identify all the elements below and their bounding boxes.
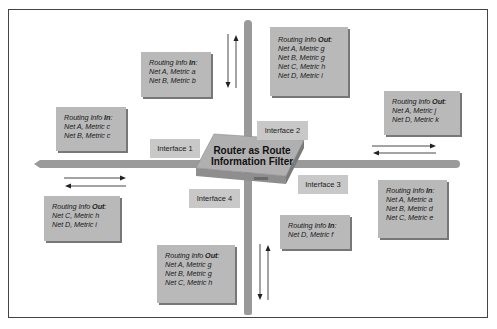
routing-info-box-iface2-out-upper: Routing Info Out: Net A, Metric g Net B,… <box>270 27 348 96</box>
box-line: Net B, Metric d <box>386 204 441 213</box>
routing-info-box-iface2-out-right: Routing Info Out: Net A, Metric j Net D,… <box>384 91 460 135</box>
box-line: Net C, Metric h <box>165 278 229 287</box>
box-line: Net D, Metric k <box>392 115 454 124</box>
box-header-suffix: : <box>334 221 336 230</box>
router-label-line1: Router as Route <box>206 145 298 156</box>
box-line: Net C, Metric h <box>52 211 114 220</box>
routing-info-box-iface4-out-left: Routing Info Out: Net C, Metric h Net D,… <box>44 196 120 241</box>
box-line: Net C, Metric h <box>278 62 342 71</box>
interface-2-label: Interface 2 <box>257 121 308 140</box>
router-label-line2: Information Filter <box>206 156 298 167</box>
interface-1-label: Interface 1 <box>150 139 200 158</box>
arrows-left-horizontal-icon <box>62 175 130 189</box>
box-header-suffix: : <box>104 202 106 211</box>
box-header-suffix: : <box>217 251 219 260</box>
routing-info-box-iface3-in-right: Routing Info In: Net A, Metric a Net B, … <box>378 180 447 238</box>
box-line: Net A, Metric a <box>149 67 205 76</box>
box-header-prefix: Routing Info <box>52 202 92 211</box>
box-header-suffix: : <box>330 35 332 44</box>
box-header-prefix: Routing Info <box>392 97 432 106</box>
box-line: Net D, Metric f <box>288 230 344 239</box>
router-device: Router as Route Information Filter <box>192 132 308 186</box>
box-line: Net B, Metric c <box>64 131 120 140</box>
box-header-prefix: Routing Info <box>386 186 426 195</box>
routing-info-box-iface1-in-upper: Routing Info In: Net A, Metric a Net B, … <box>141 52 211 97</box>
box-direction: Out <box>318 35 330 44</box>
box-direction: Out <box>205 251 217 260</box>
box-header-suffix: : <box>195 58 197 67</box>
box-header-suffix: : <box>110 113 112 122</box>
box-line: Net D, Metric i <box>278 71 342 80</box>
box-line: Net B, Metric b <box>149 76 205 85</box>
box-line: Net A, Metric g <box>278 44 342 53</box>
routing-info-box-iface1-in-lower: Routing Info In: Net A, Metric c Net B, … <box>56 107 126 151</box>
arrows-right-horizontal-icon <box>370 142 440 156</box>
box-line: Net A, Metric c <box>64 122 120 131</box>
box-header-prefix: Routing Info <box>64 113 104 122</box>
interface-3-label: Interface 3 <box>298 175 348 194</box>
box-line: Net B, Metric g <box>278 53 342 62</box>
box-line: Net A, Metric a <box>386 195 441 204</box>
box-line: Net A, Metric g <box>165 260 229 269</box>
interface-4-label: Interface 4 <box>189 189 240 208</box>
box-header-prefix: Routing Info <box>165 251 205 260</box>
box-header-prefix: Routing Info <box>278 35 318 44</box>
box-line: Net C, Metric e <box>386 213 441 222</box>
routing-info-box-iface4-out-bottom: Routing Info Out: Net A, Metric g Net B,… <box>157 245 235 303</box>
box-header-suffix: : <box>432 186 434 195</box>
routing-info-box-iface3-in-mid: Routing Info In: Net D, Metric f <box>280 215 350 249</box>
arrows-top-vertical-icon <box>224 32 240 92</box>
box-direction: Out <box>92 202 104 211</box>
box-line: Net D, Metric i <box>52 220 114 229</box>
box-header-suffix: : <box>444 97 446 106</box>
box-header-prefix: Routing Info <box>288 221 328 230</box>
box-line: Net A, Metric j <box>392 106 454 115</box>
box-direction: Out <box>432 97 444 106</box>
box-line: Net B, Metric g <box>165 269 229 278</box>
arrows-bottom-vertical-icon <box>256 242 272 304</box>
box-header-prefix: Routing Info <box>149 58 189 67</box>
